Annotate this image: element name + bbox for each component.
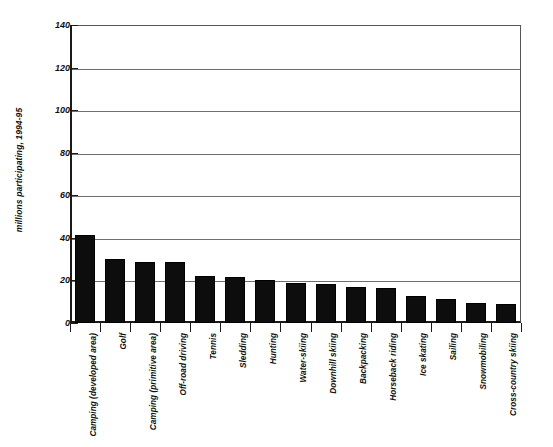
x-tick-label: Off-road driving bbox=[179, 333, 189, 445]
x-tick-mark bbox=[280, 323, 281, 332]
x-tick-label: Sailing bbox=[449, 333, 459, 445]
x-axis-ticks bbox=[70, 323, 521, 332]
y-tick-mark bbox=[70, 110, 78, 111]
x-tick-mark bbox=[461, 323, 462, 332]
x-tick-mark bbox=[401, 323, 402, 332]
gridline bbox=[72, 111, 520, 112]
x-tick-mark bbox=[190, 323, 191, 332]
y-axis-ticks: 020406080100120140 bbox=[20, 25, 70, 323]
x-tick-mark bbox=[130, 323, 131, 332]
x-tick-mark bbox=[311, 323, 312, 332]
x-tick-mark bbox=[70, 323, 71, 332]
x-tick-label: Camping (developed area) bbox=[89, 333, 99, 445]
y-tick-label: 120 bbox=[30, 63, 70, 72]
y-tick-label: 20 bbox=[30, 276, 70, 285]
x-axis-labels: Camping (developed area)GolfCamping (pri… bbox=[70, 333, 521, 445]
x-tick-mark bbox=[371, 323, 372, 332]
y-tick-mark bbox=[70, 25, 78, 26]
x-tick-label: Water-skiing bbox=[299, 333, 309, 445]
x-tick-mark bbox=[431, 323, 432, 332]
y-tick-label: 0 bbox=[30, 319, 70, 328]
y-tick-mark bbox=[70, 195, 78, 196]
gridline bbox=[72, 281, 520, 282]
x-tick-mark bbox=[250, 323, 251, 332]
y-tick-label: 40 bbox=[30, 233, 70, 242]
gridline bbox=[72, 154, 520, 155]
x-tick-label: Cross-country skiing bbox=[509, 333, 519, 445]
x-tick-label: Snowmobiling bbox=[479, 333, 489, 445]
x-tick-label: Tennis bbox=[209, 333, 219, 445]
x-tick-mark bbox=[491, 323, 492, 332]
bar-chart: millions participating, 1994-95 02040608… bbox=[0, 0, 553, 447]
x-tick-mark bbox=[521, 323, 522, 332]
x-tick-label: Horseback riding bbox=[389, 333, 399, 445]
x-tick-mark bbox=[100, 323, 101, 332]
y-tick-label: 60 bbox=[30, 191, 70, 200]
x-tick-mark bbox=[341, 323, 342, 332]
plot-area bbox=[70, 25, 521, 323]
y-tick-mark bbox=[70, 68, 78, 69]
x-tick-label: Camping (primitive area) bbox=[149, 333, 159, 445]
x-tick-label: Golf bbox=[119, 333, 129, 445]
x-tick-label: Downhill skiing bbox=[329, 333, 339, 445]
y-tick-mark bbox=[70, 153, 78, 154]
y-tick-mark bbox=[70, 280, 78, 281]
x-tick-mark bbox=[220, 323, 221, 332]
y-tick-label: 100 bbox=[30, 106, 70, 115]
y-tick-mark bbox=[70, 238, 78, 239]
x-tick-label: Hunting bbox=[269, 333, 279, 445]
x-tick-mark bbox=[160, 323, 161, 332]
x-tick-label: Ice skating bbox=[419, 333, 429, 445]
x-tick-label: Sledding bbox=[239, 333, 249, 445]
gridline bbox=[72, 69, 520, 70]
gridline bbox=[72, 239, 520, 240]
gridline bbox=[72, 196, 520, 197]
y-tick-label: 80 bbox=[30, 148, 70, 157]
y-tick-label: 140 bbox=[30, 21, 70, 30]
x-tick-label: Backpacking bbox=[359, 333, 369, 445]
